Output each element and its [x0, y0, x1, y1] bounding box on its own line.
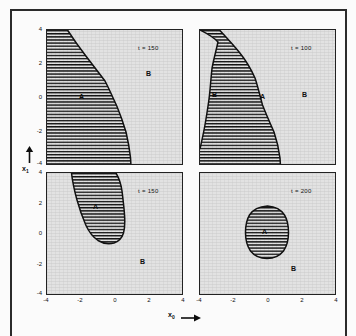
panel-bottom-right: t = 200 A B [199, 172, 336, 295]
region-label-a-top-right: A [260, 93, 265, 100]
ytick-bottom-0: 0 [28, 230, 42, 236]
xtick-bl-4: 4 [175, 297, 191, 303]
time-label-top-right: t = 100 [291, 45, 312, 51]
panel-top-right-frame [199, 29, 336, 165]
time-label-bottom-right: t = 200 [291, 188, 312, 194]
panel-top-left-frame [46, 29, 183, 165]
ytick-bottom-neg2: -2 [25, 261, 42, 267]
time-label-top-left: t = 150 [138, 45, 159, 51]
figure-root: t = 150 A B [0, 0, 356, 336]
panel-top-left-plot [47, 30, 183, 165]
ytick-bottom-2: 2 [28, 200, 42, 206]
x-axis-title-subscript: 0 [172, 314, 175, 320]
panel-bottom-left-frame [46, 172, 183, 295]
xtick-br-2: 2 [294, 297, 310, 303]
y-axis-arrow-icon [24, 146, 35, 164]
ytick-top-0: 0 [28, 94, 42, 100]
xtick-bl-neg4: -4 [38, 297, 54, 303]
panel-grid: t = 150 A B [0, 0, 356, 336]
y-axis-title-subscript: 1 [26, 168, 29, 174]
time-label-bottom-left: t = 150 [138, 188, 159, 194]
xtick-br-0: 0 [260, 297, 276, 303]
panel-bottom-left-plot [47, 173, 183, 295]
xtick-bl-2: 2 [141, 297, 157, 303]
region-label-b-right-top-right: B [302, 91, 307, 98]
x-axis-title: x0 [168, 311, 175, 320]
region-label-b-bottom-right: B [291, 265, 296, 272]
region-label-a-bottom-left: A [93, 203, 98, 210]
x-axis-arrow-icon [181, 313, 201, 323]
xtick-br-neg2: -2 [225, 297, 241, 303]
region-label-b-top-left: B [146, 70, 151, 77]
xtick-br-neg4: -4 [191, 297, 207, 303]
panel-bottom-right-plot [200, 173, 336, 295]
xtick-bl-0: 0 [107, 297, 123, 303]
region-label-a-top-left: A [79, 93, 84, 100]
panel-top-left: t = 150 A B [46, 29, 183, 165]
panel-bottom-right-frame [199, 172, 336, 295]
region-label-b-left-top-right: B [212, 91, 217, 98]
xtick-bl-neg2: -2 [72, 297, 88, 303]
region-label-a-bottom-right: A [262, 228, 267, 235]
panel-top-right: t = 100 A B B [199, 29, 336, 165]
y-axis-title: x1 [22, 165, 29, 174]
panel-top-right-plot [200, 30, 336, 165]
ytick-top-neg2: -2 [25, 128, 42, 134]
xtick-br-4: 4 [328, 297, 344, 303]
region-label-b-bottom-left: B [140, 258, 145, 265]
ytick-bottom-4: 4 [28, 169, 42, 175]
ytick-top-4: 4 [28, 26, 42, 32]
ytick-top-2: 2 [28, 60, 42, 66]
ytick-bottom-neg4: -4 [25, 290, 42, 296]
panel-bottom-left: t = 150 A B [46, 172, 183, 295]
